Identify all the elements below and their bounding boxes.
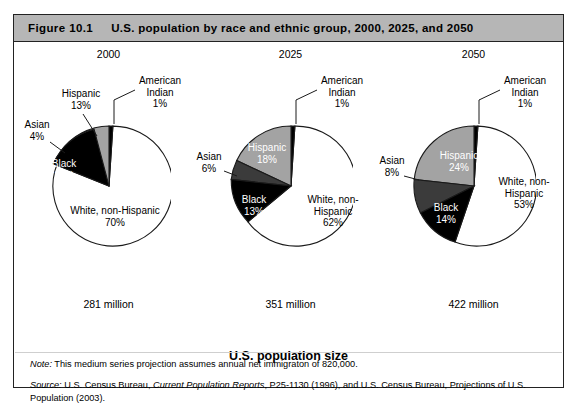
leader-line-hispanic-2000 (83, 114, 105, 144)
pie-panel-2025: 2025 (199, 42, 382, 324)
label-black-2025: Black 13% (229, 194, 279, 217)
label-american-indian-2025: American Indian 1% (311, 75, 373, 110)
label-black-2050: Black 14% (420, 202, 472, 225)
label-black-2000: Black 12% (39, 158, 89, 181)
label-asian-2025: Asian 6% (187, 151, 231, 174)
source-line: Source: U.S. Census Bureau, Current Popu… (30, 379, 549, 405)
label-hispanic-2025: Hispanic 18% (239, 142, 295, 165)
figure-frame: Figure 10.1 U.S. population by race and … (13, 14, 564, 388)
year-label-2050: 2050 (382, 48, 565, 60)
label-hispanic-2050: Hispanic 24% (430, 150, 488, 173)
pie-panel-2050: 2050 (382, 42, 565, 324)
year-label-2000: 2000 (17, 48, 200, 60)
year-label-2025: 2025 (199, 48, 382, 60)
figure-title: U.S. population by race and ethnic group… (111, 22, 473, 34)
note-text: This medium series projection assumes an… (52, 359, 358, 369)
pie-panel-2000: 2000 (17, 42, 200, 324)
figure-title-bar: Figure 10.1 U.S. population by race and … (14, 15, 563, 42)
source-text-part1: U.S. Census Bureau, (62, 380, 153, 390)
population-label-2000: 281 million (17, 298, 200, 310)
label-american-indian-2050: American Indian 1% (494, 75, 556, 110)
footnotes: Note: This medium series projection assu… (30, 358, 549, 407)
label-white-non-hispanic-2050: White, non- Hispanic 53% (486, 176, 562, 211)
leader-line-asian-2000 (50, 142, 72, 158)
population-label-2050: 422 million (382, 298, 565, 310)
label-american-indian-2000: American Indian 1% (129, 75, 191, 110)
label-hispanic-2000: Hispanic 13% (46, 88, 116, 111)
note-line: Note: This medium series projection assu… (30, 358, 549, 371)
label-asian-2050: Asian 8% (370, 155, 414, 178)
charts-area: 2000 (14, 42, 563, 324)
note-prefix: Note: (30, 359, 52, 369)
label-white-non-hispanic-2025: White, non- Hispanic 62% (295, 194, 371, 229)
source-prefix: Source: (30, 380, 62, 390)
population-label-2025: 351 million (199, 298, 382, 310)
label-white-non-hispanic-2000: White, non-Hispanic 70% (53, 205, 177, 228)
figure-number: Figure 10.1 (28, 22, 93, 34)
source-publication-title: Current Population Reports (153, 380, 264, 390)
footer-divider (15, 352, 562, 353)
label-asian-2000: Asian 4% (15, 119, 59, 142)
